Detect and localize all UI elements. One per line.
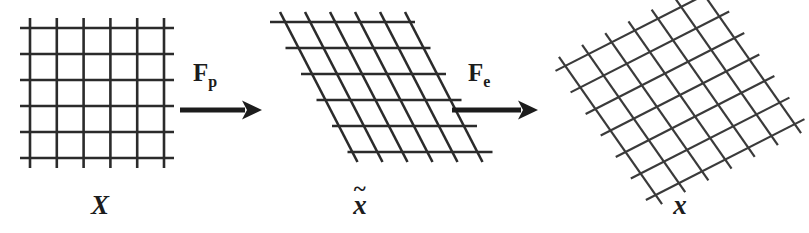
panel-label-reference: X — [70, 192, 130, 219]
panel-label-current-text: x — [673, 190, 687, 220]
operator-symbol-plastic: F — [193, 59, 208, 86]
tilde-group: ~ x — [353, 192, 367, 219]
tilde-accent-icon: ~ — [354, 177, 366, 200]
grid-line — [305, 12, 383, 162]
grid-line — [355, 12, 433, 162]
operator-subscript-plastic: p — [208, 73, 217, 90]
operator-symbol-elastic: F — [468, 59, 483, 86]
panel-label-current: x — [650, 192, 710, 219]
figure-canvas: Fp Fe X ~ x x — [0, 0, 809, 233]
panel-label-intermediate: ~ x — [330, 192, 390, 219]
operator-subscript-elastic: e — [483, 73, 490, 90]
grid-line — [405, 12, 483, 162]
grid-line — [380, 12, 458, 162]
operator-label-elastic: Fe — [468, 60, 490, 85]
intermediate-grid-lines — [270, 12, 493, 162]
operator-label-plastic: Fp — [193, 60, 217, 85]
panel-label-reference-text: X — [91, 190, 109, 220]
grid-line — [330, 12, 408, 162]
grid-line — [280, 12, 358, 162]
current-grid-lines — [556, 0, 805, 204]
reference-grid-lines — [20, 18, 174, 168]
